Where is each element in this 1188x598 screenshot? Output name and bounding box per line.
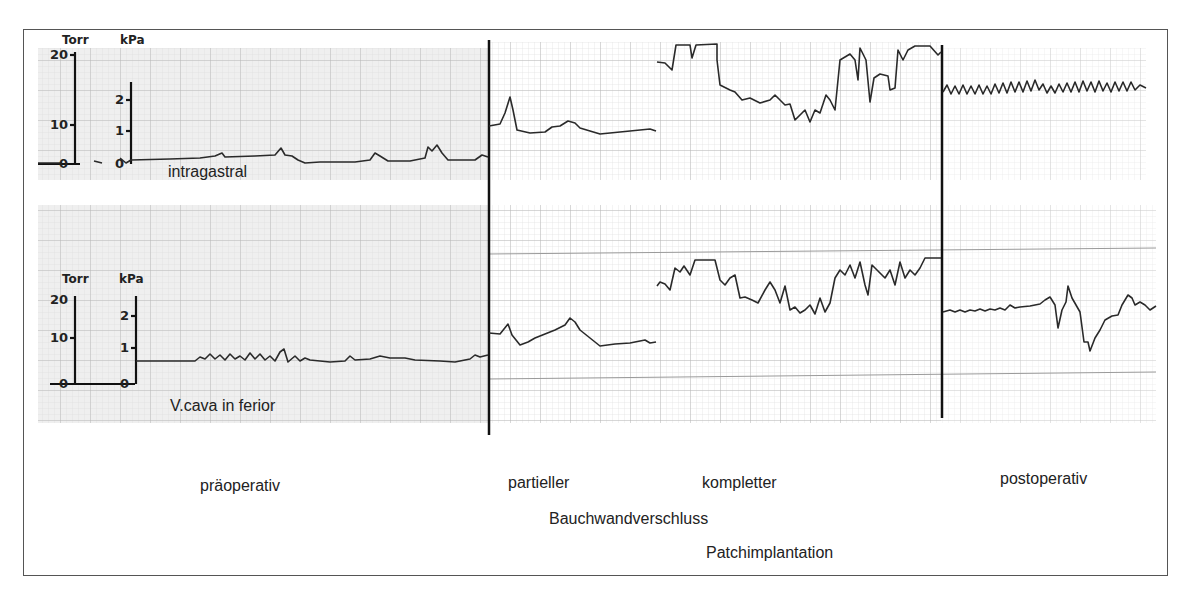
bottom-kpa-label: kPa xyxy=(119,272,144,286)
top-strip-grid xyxy=(38,42,1146,180)
bottom-torr-label: Torr xyxy=(62,272,89,286)
top-torr-tick-20: 20 xyxy=(42,47,68,62)
phase-label-closure: Bauchwandverschluss xyxy=(549,510,708,528)
intragastral-label: intragastral xyxy=(168,163,247,181)
bottom-strip-grid xyxy=(38,205,1156,423)
phase-label-partial: partieller xyxy=(508,474,569,492)
phase-label-complete: kompletter xyxy=(702,474,777,492)
phase-label-patch: Patchimplantation xyxy=(706,544,833,562)
bottom-torr-tick-0: 0 xyxy=(42,376,68,391)
phase-label-postop: postoperativ xyxy=(1000,470,1087,488)
bottom-kpa-tick-0: 0 xyxy=(111,376,129,391)
phase-label-preop: präoperativ xyxy=(200,477,280,495)
vcava-label: V.cava in ferior xyxy=(170,397,275,415)
top-kpa-tick-2: 2 xyxy=(106,92,124,107)
recording-strips xyxy=(0,0,1188,598)
top-kpa-tick-0: 0 xyxy=(106,156,124,171)
top-torr-tick-10: 10 xyxy=(42,117,68,132)
bottom-torr-tick-10: 10 xyxy=(42,330,68,345)
top-torr-tick-0: 0 xyxy=(42,156,68,171)
bottom-torr-tick-20: 20 xyxy=(42,292,68,307)
top-kpa-label: kPa xyxy=(120,33,145,47)
bottom-kpa-tick-1: 1 xyxy=(111,340,129,355)
top-kpa-tick-1: 1 xyxy=(106,123,124,138)
bottom-kpa-tick-2: 2 xyxy=(111,308,129,323)
top-torr-label: Torr xyxy=(62,33,89,47)
